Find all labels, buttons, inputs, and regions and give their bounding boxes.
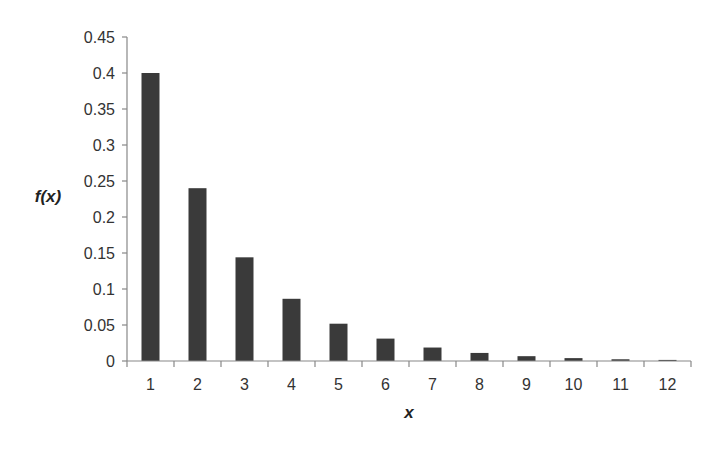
bars <box>142 73 677 361</box>
bar <box>236 257 254 361</box>
y-tick-label: 0.05 <box>84 317 115 334</box>
y-tick-label: 0.15 <box>84 245 115 262</box>
bar <box>142 73 160 361</box>
x-tick-label: 2 <box>193 376 202 393</box>
bar <box>377 339 395 361</box>
y-tick-label: 0.1 <box>93 281 115 298</box>
bar <box>471 353 489 361</box>
x-tick-label: 7 <box>428 376 437 393</box>
y-tick-label: 0.4 <box>93 65 115 82</box>
bar <box>330 324 348 361</box>
x-tick-label: 12 <box>659 376 677 393</box>
x-tick-label: 3 <box>240 376 249 393</box>
x-tick-label: 4 <box>287 376 296 393</box>
bar <box>283 299 301 361</box>
x-tick-label: 1 <box>146 376 155 393</box>
bar <box>189 188 207 361</box>
x-axis-title: x <box>403 403 415 422</box>
y-tick-label: 0.2 <box>93 209 115 226</box>
x-tick-label: 5 <box>334 376 343 393</box>
x-tick-label: 8 <box>475 376 484 393</box>
x-tick-label: 6 <box>381 376 390 393</box>
bar <box>518 356 536 361</box>
y-tick-label: 0.35 <box>84 101 115 118</box>
y-tick-label: 0.25 <box>84 173 115 190</box>
x-tick-label: 9 <box>522 376 531 393</box>
x-tick-label: 10 <box>565 376 583 393</box>
x-tick-label: 11 <box>612 376 629 393</box>
y-tick-label: 0.45 <box>84 29 115 46</box>
x-axis: 123456789101112 <box>127 361 691 393</box>
y-tick-label: 0.3 <box>93 137 115 154</box>
y-tick-label: 0 <box>106 353 115 370</box>
bar-chart: 00.050.10.150.20.250.30.350.40.45 123456… <box>0 0 715 450</box>
y-axis: 00.050.10.150.20.250.30.350.40.45 <box>84 29 127 370</box>
bar <box>424 348 442 361</box>
y-axis-title: f(x) <box>35 187 62 206</box>
